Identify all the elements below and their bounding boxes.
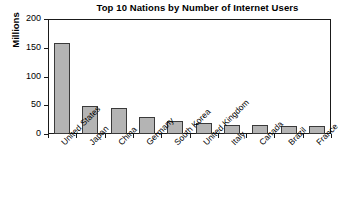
x-tick-mark <box>48 134 49 138</box>
y-tick-label: 100 <box>26 71 41 82</box>
bar[interactable] <box>54 43 70 134</box>
y-tick: 200 <box>0 19 48 20</box>
bar-slot <box>303 19 331 134</box>
bar-slot <box>48 19 76 134</box>
y-tick-label: 200 <box>26 13 41 24</box>
y-tick: 150 <box>0 48 48 49</box>
y-tick-label: 0 <box>36 128 41 139</box>
y-axis-label: Millions <box>9 0 23 62</box>
bar-slot <box>274 19 302 134</box>
bar-slot <box>246 19 274 134</box>
y-tick-label: 150 <box>26 42 41 53</box>
y-tick-label: 50 <box>31 99 41 110</box>
chart-title: Top 10 Nations by Number of Internet Use… <box>55 2 340 14</box>
bar-slot <box>133 19 161 134</box>
y-tick: 100 <box>0 77 48 78</box>
y-tick: 0 <box>0 134 48 135</box>
chart-container: Top 10 Nations by Number of Internet Use… <box>0 0 343 210</box>
bar-slot <box>105 19 133 134</box>
y-tick: 50 <box>0 105 48 106</box>
